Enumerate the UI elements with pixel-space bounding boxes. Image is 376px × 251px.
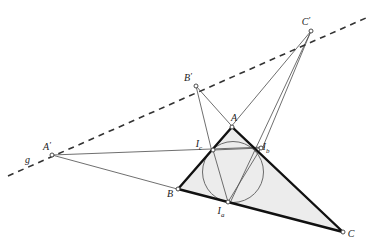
point-marker-Cp xyxy=(309,29,313,33)
point-label-C: C xyxy=(348,228,355,239)
point-marker-Bp xyxy=(194,84,198,88)
axis-label-g: g xyxy=(25,154,30,165)
point-label-B: B xyxy=(167,188,173,199)
point-label-A: A xyxy=(230,112,238,123)
point-marker-Ia xyxy=(226,200,230,204)
point-marker-Ic xyxy=(211,148,215,152)
geometry-figure: ABCIaIbIcA′B′C′ g xyxy=(0,0,376,251)
point-marker-B xyxy=(176,187,180,191)
point-marker-Ap xyxy=(50,153,54,157)
point-marker-C xyxy=(341,230,345,234)
point-marker-A xyxy=(230,125,234,129)
